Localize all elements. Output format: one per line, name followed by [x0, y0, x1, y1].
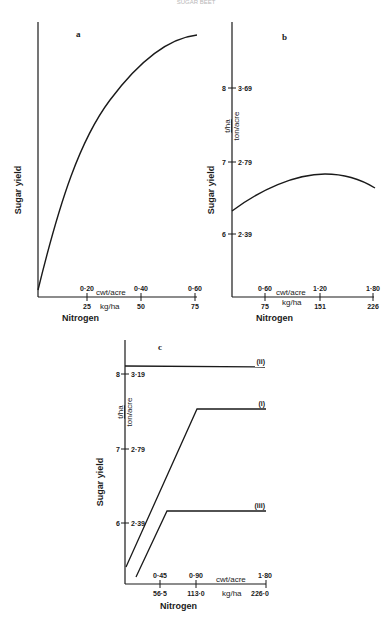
panel-b-y-left-tick: 7 [222, 159, 226, 166]
panel-b-y-right-tick: 3·69 [238, 85, 252, 92]
panel-b-curve [232, 174, 375, 211]
panel-b-y-right-tick: 2·79 [238, 159, 252, 166]
panel-a-top-tick: 0·60 [188, 285, 202, 292]
panel-c-top-tick: 1·80 [258, 572, 272, 579]
panel-a-unit-bottom: kg/ha [100, 302, 120, 311]
panel-b-y-left-tick: 6 [222, 231, 226, 238]
panel-c-bottom-tick: 226·0 [251, 590, 269, 597]
page-header: SUGAR BEET [177, 0, 216, 5]
panel-a-x-label: Nitrogen [62, 313, 99, 323]
panel-c-top-tick: 0·90 [189, 572, 203, 579]
panel-c-unit-bottom: kg/ha [222, 589, 242, 598]
panel-c-bottom-tick: 113·0 [187, 590, 205, 597]
panel-b-y-label: Sugar yield [206, 166, 216, 215]
panel-c-y-right-tick: 2·79 [131, 446, 145, 453]
panel-c-bottom-tick: 56·5 [153, 590, 167, 597]
panel-b-y-unit-right: ton/acre [232, 111, 241, 140]
panel-c-line-ii [125, 366, 265, 367]
panel-a [38, 22, 197, 301]
figure: SUGAR BEET a Sugar yield 0·20 0·40 0·60 … [0, 0, 392, 619]
panel-c-series-label-iii: (iii) [255, 502, 266, 510]
panel-c-label: c [158, 342, 162, 352]
panel-b-unit-top: cwt/acre [276, 288, 306, 297]
panel-a-label: a [76, 29, 81, 39]
panel-a-curve [38, 35, 197, 290]
panel-c-series-label-ii: (ii) [256, 358, 265, 366]
panel-c-x-label: Nitrogen [160, 601, 197, 611]
panel-c-y-unit-left: t/ha [116, 405, 125, 419]
panel-b-y-left-tick: 8 [222, 85, 226, 92]
panel-a-bottom-tick: 75 [191, 303, 199, 310]
panel-a-bottom-tick: 25 [83, 303, 91, 310]
panel-b-unit-bottom: kg/ha [282, 298, 302, 307]
panel-b-y-right-tick: 2·39 [238, 231, 252, 238]
panel-c-y-unit-right: ton/acre [125, 397, 134, 426]
panel-c-y-right-tick: 2·39 [131, 520, 145, 527]
panel-b-y-unit-left: t/ha [223, 119, 232, 133]
panel-b-bottom-tick: 75 [261, 303, 269, 310]
panel-b-bottom-tick: 226 [367, 303, 379, 310]
panel-c-line-i [126, 409, 266, 567]
panel-b-label: b [282, 32, 287, 42]
panel-b-top-tick: 1·20 [313, 285, 327, 292]
panel-c-unit-top: cwt/acre [216, 575, 246, 584]
panel-a-top-tick: 0·20 [80, 285, 94, 292]
panel-c-y-label: Sugar yield [95, 458, 105, 507]
panel-c-y-left-tick: 8 [116, 371, 120, 378]
panel-a-top-tick: 0·40 [134, 285, 148, 292]
panel-c-top-tick: 0·45 [153, 572, 167, 579]
panel-b-top-tick: 0·60 [258, 285, 272, 292]
panel-b-x-label: Nitrogen [256, 313, 293, 323]
panel-c-y-left-tick: 6 [116, 520, 120, 527]
panel-c-y-left-tick: 7 [116, 446, 120, 453]
panel-c-line-iii [136, 511, 266, 577]
panel-b-top-tick: 1·80 [366, 285, 380, 292]
panel-a-bottom-tick: 50 [137, 303, 145, 310]
panel-a-y-label: Sugar yield [13, 166, 23, 215]
panel-c-series-label-i: (i) [258, 400, 265, 408]
panel-c-y-right-tick: 3·19 [131, 371, 145, 378]
panel-b-bottom-tick: 151 [314, 303, 326, 310]
panel-a-unit-top: cwt/acre [96, 288, 126, 297]
